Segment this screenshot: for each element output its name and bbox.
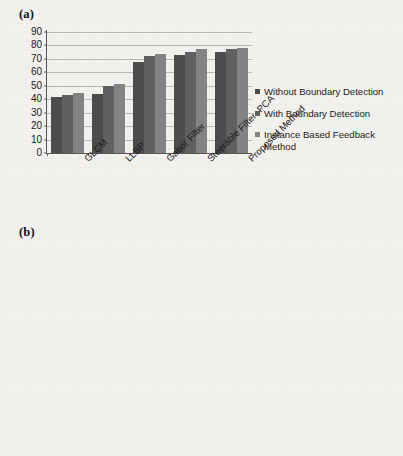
bar[interactable] [144,56,155,153]
chart-a-bar-groups [47,32,252,153]
y-tick-label: 30 [31,108,42,118]
bar[interactable] [73,93,84,154]
chart-a-x-tick-labels: GLCMLLBPGabor FilterSteerable Filter+PCA… [47,153,252,213]
panel-b-label: (b) [19,225,35,240]
bar[interactable] [51,97,62,153]
y-tick-label: 80 [31,40,42,50]
y-tick-label: 70 [31,54,42,64]
x-tick-mark [251,153,252,156]
legend-item[interactable]: Instance Based Feedback Method [255,129,403,152]
bar[interactable] [114,84,125,153]
bar[interactable] [62,95,73,153]
y-tick-label: 40 [31,94,42,104]
legend-label: With Boundary Detection [264,108,403,120]
bar-group [47,32,88,153]
legend-label: Without Boundary Detection [264,86,403,98]
legend-item[interactable]: Without Boundary Detection [255,86,403,98]
figure-panel-a: (a) 0102030405060708090 GLCMLLBPGabor Fi… [0,0,403,222]
panel-a-label: (a) [19,7,34,22]
figure-panel-b: (b) 010203040506070 GLCMLLBPGabor Filter… [0,222,403,456]
chart-a-legend: Without Boundary DetectionWith Boundary … [255,86,403,152]
legend-swatch-icon [255,111,260,116]
y-tick-label: 0 [36,148,42,158]
y-tick-label: 60 [31,67,42,77]
bar[interactable] [155,54,166,153]
legend-item[interactable]: With Boundary Detection [255,108,403,120]
y-tick-label: 50 [31,81,42,91]
bar-group [88,32,129,153]
y-tick-label: 10 [31,135,42,145]
bar-group [129,32,170,153]
legend-swatch-icon [255,132,260,137]
legend-label: Instance Based Feedback Method [264,129,403,152]
y-tick-label: 20 [31,121,42,131]
chart-a-plot-area: 0102030405060708090 GLCMLLBPGabor Filter… [47,32,252,153]
y-tick-label: 90 [31,27,42,37]
legend-swatch-icon [255,89,260,94]
